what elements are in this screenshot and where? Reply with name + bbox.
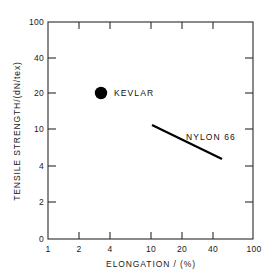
- y-axis-ticks: [48, 58, 56, 202]
- series-label-nylon66: NYLON 66: [186, 132, 236, 142]
- series-label-kevlar: KEVLAR: [114, 88, 154, 98]
- y-tick-label-4: 4: [39, 161, 44, 171]
- x-tick-label-1: 1: [45, 244, 50, 254]
- x-tick-label-20: 20: [177, 244, 187, 254]
- x-tick-label-10: 10: [146, 244, 156, 254]
- y-tick-label-10: 10: [34, 124, 44, 134]
- plot-frame: [48, 22, 253, 239]
- data-line-nylon66: [152, 125, 222, 159]
- chart-figure: 100 40 20 10 4 2 0 1 2 4 10 20 40 100 EL…: [0, 0, 274, 280]
- x-axis-top-ticks: [79, 22, 213, 29]
- x-axis-title: ELONGATION / (%): [106, 259, 196, 269]
- x-tick-label-4: 4: [107, 244, 112, 254]
- x-axis-ticks: [79, 232, 213, 239]
- x-tick-label-40: 40: [208, 244, 218, 254]
- x-tick-label-100: 100: [246, 244, 261, 254]
- y-tick-label-100: 100: [29, 17, 44, 27]
- y-tick-label-2: 2: [39, 197, 44, 207]
- y-tick-label-40: 40: [34, 53, 44, 63]
- y-tick-label-0: 0: [39, 234, 44, 244]
- y-tick-label-20: 20: [34, 88, 44, 98]
- y-axis-title: TENSILE STRENGTH/(dN/tex): [12, 61, 22, 201]
- y-axis-right-ticks: [245, 58, 253, 202]
- data-point-kevlar: [95, 87, 107, 99]
- loglog-plot: 100 40 20 10 4 2 0 1 2 4 10 20 40 100 EL…: [0, 0, 274, 280]
- x-tick-label-2: 2: [76, 244, 81, 254]
